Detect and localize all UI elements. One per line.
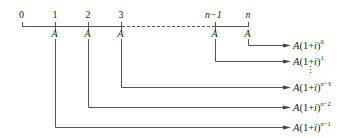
exponent: n−1 — [321, 120, 331, 127]
vertical-ellipsis-icon: ⋮ — [306, 68, 312, 72]
arrow-icon — [283, 44, 291, 48]
arrow-icon — [283, 86, 291, 90]
payment-label-1: A — [52, 29, 58, 39]
connector-2 — [89, 39, 287, 108]
future-value-2: A(1+i)n−2 — [293, 102, 331, 113]
future-value-n: A(1+i)0 — [293, 40, 324, 51]
tick-label-3: 3 — [119, 10, 124, 20]
connector-lines — [56, 39, 287, 128]
timeline-diagram-lines — [0, 0, 347, 138]
exponent: n−2 — [321, 100, 331, 107]
arrow-icon — [283, 106, 291, 110]
payment-label-3: A — [118, 29, 124, 39]
connector-1 — [56, 39, 287, 128]
payment-label-n: A — [245, 29, 251, 39]
tick-label-n: n — [246, 10, 251, 20]
tick-label-0: 0 — [19, 10, 24, 20]
tick-label-n-minus-1: n−1 — [205, 10, 222, 20]
tick-label-1: 1 — [53, 10, 58, 20]
arrowheads — [283, 44, 291, 130]
future-value-3: A(1+i)n−3 — [293, 82, 331, 93]
payment-label-n-minus-1: A — [212, 29, 218, 39]
future-value-1: A(1+i)n−1 — [293, 122, 331, 133]
arrow-icon — [283, 126, 291, 130]
arrow-icon — [283, 60, 291, 64]
exponent: 1 — [321, 54, 324, 61]
connector-n — [249, 39, 287, 46]
payment-label-2: A — [85, 29, 91, 39]
connector-3 — [122, 39, 287, 88]
tick-label-2: 2 — [86, 10, 91, 20]
exponent: 0 — [321, 38, 324, 45]
connector-n-1 — [216, 39, 287, 62]
exponent: n−3 — [321, 80, 331, 87]
